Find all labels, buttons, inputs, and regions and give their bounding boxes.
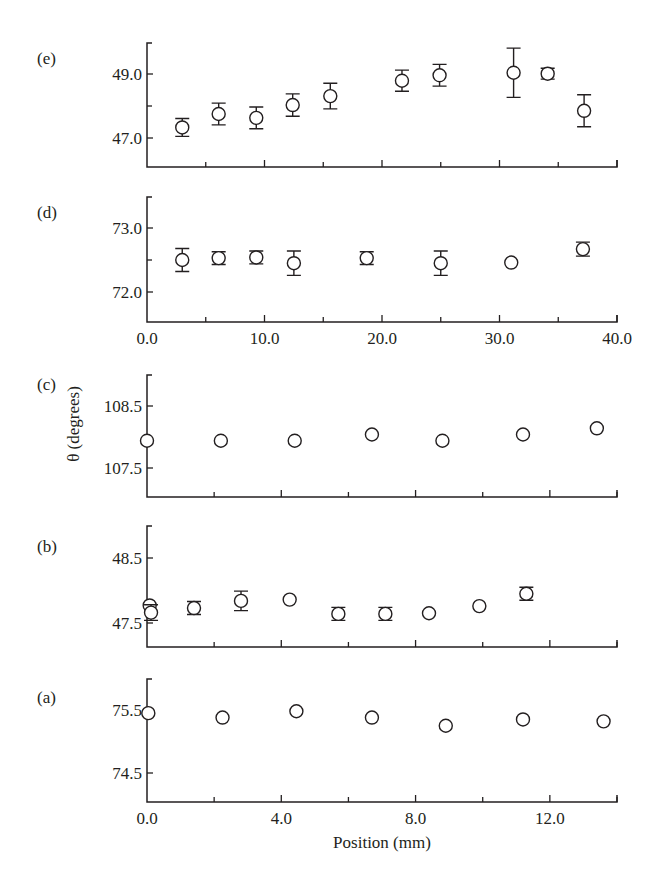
y-tick-label: 108.5 bbox=[104, 397, 142, 416]
y-tick-label: 75.5 bbox=[112, 701, 142, 720]
data-point bbox=[578, 104, 591, 117]
y-tick-label: 49.0 bbox=[112, 65, 142, 84]
data-point bbox=[517, 428, 530, 441]
data-point bbox=[212, 108, 225, 121]
data-point bbox=[423, 607, 436, 620]
panel-e: (e)47.049.0 bbox=[37, 43, 617, 167]
data-point bbox=[507, 66, 520, 79]
data-point bbox=[235, 594, 248, 607]
data-point bbox=[142, 707, 155, 720]
data-point bbox=[434, 257, 447, 270]
multi-panel-scatter-plot: (e)47.049.0(d)72.073.00.010.020.030.040.… bbox=[0, 0, 660, 891]
panel-a: (a)74.575.50.04.08.012.0 bbox=[37, 679, 617, 828]
data-point bbox=[288, 434, 301, 447]
data-point bbox=[395, 74, 408, 87]
data-point bbox=[576, 243, 589, 256]
x-tick-label: 40.0 bbox=[602, 329, 632, 348]
data-point bbox=[216, 711, 229, 724]
panel-c: (c)107.5108.5 bbox=[37, 375, 617, 497]
data-point bbox=[212, 252, 225, 265]
x-tick-label: 10.0 bbox=[250, 329, 280, 348]
x-tick-label: 20.0 bbox=[367, 329, 397, 348]
x-tick-label: 30.0 bbox=[485, 329, 515, 348]
axes-spine bbox=[147, 526, 617, 647]
y-axis-title: θ (degrees) bbox=[64, 386, 83, 462]
y-tick-label: 107.5 bbox=[104, 459, 142, 478]
panel-label: (a) bbox=[37, 688, 56, 707]
data-point bbox=[332, 607, 345, 620]
data-point bbox=[360, 252, 373, 265]
data-point bbox=[188, 602, 201, 615]
x-axis-title: Position (mm) bbox=[333, 833, 431, 852]
data-point bbox=[287, 257, 300, 270]
axes-spine bbox=[147, 43, 617, 167]
data-point bbox=[176, 254, 189, 267]
panel-b: (b)47.548.5 bbox=[37, 526, 617, 647]
x-tick-label: 8.0 bbox=[405, 809, 426, 828]
data-point bbox=[505, 256, 518, 269]
y-tick-label: 73.0 bbox=[112, 219, 142, 238]
panel-label: (c) bbox=[37, 375, 56, 394]
data-point bbox=[324, 90, 337, 103]
panel-d: (d)72.073.00.010.020.030.040.0 bbox=[37, 197, 632, 348]
data-point bbox=[597, 715, 610, 728]
data-point bbox=[141, 434, 154, 447]
data-point bbox=[433, 69, 446, 82]
y-tick-label: 48.5 bbox=[112, 549, 142, 568]
data-point bbox=[283, 593, 296, 606]
data-point bbox=[290, 705, 303, 718]
panel-label: (e) bbox=[37, 49, 56, 68]
panel-label: (d) bbox=[37, 203, 57, 222]
panel-label: (b) bbox=[37, 537, 57, 556]
x-tick-label: 0.0 bbox=[136, 329, 157, 348]
data-point bbox=[520, 587, 533, 600]
data-point bbox=[176, 121, 189, 134]
data-point bbox=[439, 719, 452, 732]
x-tick-label: 12.0 bbox=[535, 809, 565, 828]
data-point bbox=[250, 251, 263, 264]
x-tick-label: 0.0 bbox=[136, 809, 157, 828]
panels: (e)47.049.0(d)72.073.00.010.020.030.040.… bbox=[37, 43, 632, 828]
data-point bbox=[436, 434, 449, 447]
data-point bbox=[286, 99, 299, 112]
data-point bbox=[214, 434, 227, 447]
data-point bbox=[473, 600, 486, 613]
data-point bbox=[541, 67, 554, 80]
x-tick-label: 4.0 bbox=[271, 809, 292, 828]
figure: (e)47.049.0(d)72.073.00.010.020.030.040.… bbox=[0, 0, 660, 891]
y-tick-label: 47.5 bbox=[112, 614, 142, 633]
data-point bbox=[379, 607, 392, 620]
data-point bbox=[250, 111, 263, 124]
y-tick-label: 72.0 bbox=[112, 283, 142, 302]
y-tick-label: 47.0 bbox=[112, 129, 142, 148]
data-point bbox=[590, 422, 603, 435]
data-point bbox=[365, 428, 378, 441]
y-tick-label: 74.5 bbox=[112, 764, 142, 783]
data-point bbox=[365, 711, 378, 724]
data-point bbox=[145, 606, 158, 619]
data-point bbox=[517, 713, 530, 726]
axes-spine bbox=[147, 679, 617, 802]
